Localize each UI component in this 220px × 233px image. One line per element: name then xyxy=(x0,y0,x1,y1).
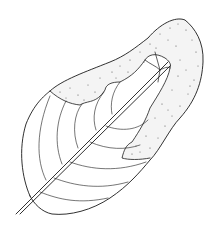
leaf-mine-blotch xyxy=(50,19,203,160)
leaf-illustration xyxy=(0,0,220,233)
leaf-drawing xyxy=(0,0,220,233)
